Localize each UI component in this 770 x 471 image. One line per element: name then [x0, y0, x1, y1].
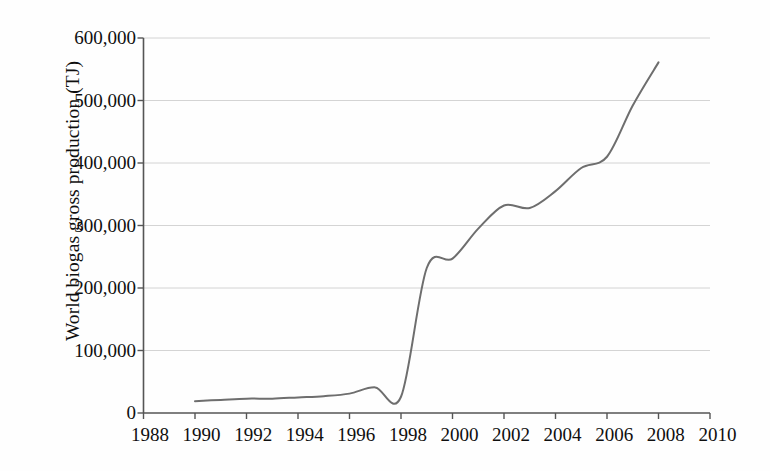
chart-figure: World biogas gross production (TJ) 0 100… — [0, 0, 770, 471]
gridlines — [144, 38, 711, 351]
data-series-line — [195, 62, 659, 403]
axis-ticks — [138, 38, 711, 419]
plot-area — [0, 0, 770, 471]
